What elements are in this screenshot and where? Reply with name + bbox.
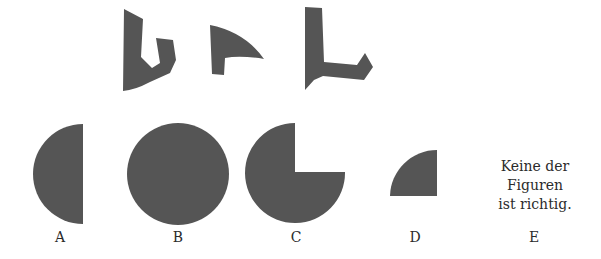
option-c-shape[interactable] [245, 123, 345, 223]
option-e-line-2: Figuren [489, 176, 581, 195]
option-e-text[interactable]: Keine der Figuren ist richtig. [489, 157, 581, 214]
option-d-shape[interactable] [390, 150, 437, 196]
option-b-label: B [163, 229, 193, 245]
option-a-shape[interactable] [33, 124, 83, 224]
piece-2-shape [210, 25, 264, 75]
option-a-label: A [45, 229, 75, 245]
option-d-label: D [400, 229, 430, 245]
piece-1-shape [123, 9, 176, 91]
option-e-line-3: ist richtig. [489, 195, 581, 214]
option-c-label: C [281, 229, 311, 245]
option-e-line-1: Keine der [489, 157, 581, 176]
pieces-group [123, 7, 373, 91]
piece-3-shape [305, 7, 373, 90]
option-e-label: E [519, 229, 549, 245]
option-b-shape[interactable] [127, 123, 229, 225]
options-group [33, 123, 437, 225]
puzzle-canvas [0, 0, 601, 259]
